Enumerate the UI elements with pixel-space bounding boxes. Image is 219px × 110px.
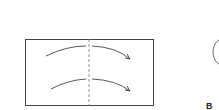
step-label: B	[206, 102, 213, 110]
folding-diagram	[0, 0, 219, 110]
partial-circle-icon	[213, 40, 219, 64]
fold-arrow-bottom-right	[92, 79, 130, 91]
fold-arrow-top-left	[46, 46, 86, 56]
fold-arrow-bottom-left	[51, 79, 86, 89]
paper-sheet	[26, 40, 154, 106]
fold-arrow-top-right	[92, 46, 130, 59]
